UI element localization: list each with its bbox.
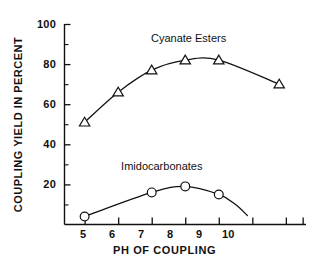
x-tick-label-9: 9 bbox=[196, 229, 202, 240]
data-point-imidocarbonates-ph-5 bbox=[80, 212, 89, 221]
annotation-imidocarbonates: Imidocarbonates bbox=[121, 161, 202, 172]
series-line-cyanate-esters bbox=[85, 58, 280, 122]
y-tick-label-80: 80 bbox=[43, 59, 56, 70]
annotation-cyanate-esters: Cyanate Esters bbox=[151, 33, 226, 44]
y-tick-label-20: 20 bbox=[43, 179, 56, 190]
data-point-cyanate-esters-ph-10.8 bbox=[274, 79, 284, 88]
series-cyanate-esters bbox=[79, 55, 284, 126]
x-tick-label-5: 5 bbox=[80, 229, 86, 240]
y-tick-label-40: 40 bbox=[43, 139, 56, 150]
series-line-imidocarbonates bbox=[85, 186, 248, 216]
x-axis-title: PH OF COUPLING bbox=[113, 245, 216, 256]
data-point-cyanate-esters-ph-6 bbox=[113, 87, 123, 96]
data-point-imidocarbonates-ph-7 bbox=[147, 188, 156, 197]
x-axis-major-ticks bbox=[85, 218, 303, 225]
chart-figure: COUPLING YIELD IN PERCENT 10080604020 56… bbox=[0, 0, 320, 266]
x-tick-label-7: 7 bbox=[138, 229, 144, 240]
x-tick-label-8: 8 bbox=[167, 229, 173, 240]
y-axis-major-ticks bbox=[65, 25, 71, 185]
series-imidocarbonates bbox=[80, 182, 247, 221]
x-tick-label-10: 10 bbox=[222, 229, 235, 240]
y-tick-label-60: 60 bbox=[43, 99, 56, 110]
data-point-cyanate-esters-ph-7 bbox=[147, 65, 157, 74]
x-tick-label-6: 6 bbox=[109, 229, 115, 240]
data-point-imidocarbonates-ph-8 bbox=[181, 182, 190, 191]
data-point-imidocarbonates-ph-9 bbox=[214, 190, 223, 199]
y-tick-label-100: 100 bbox=[37, 19, 56, 30]
y-axis-title: COUPLING YIELD IN PERCENT bbox=[12, 37, 24, 212]
